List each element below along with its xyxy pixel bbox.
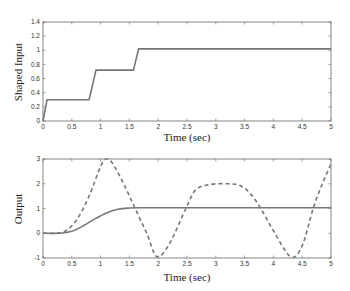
x-tick-label: 4 (272, 260, 276, 267)
x-tick-label: 3 (214, 260, 218, 267)
y-tick-label: 0.8 (31, 61, 40, 68)
y-tick-label: -1 (34, 254, 40, 261)
y-tick-label: 1 (36, 205, 40, 212)
top-xlabel: Time (sec) (164, 131, 211, 144)
series-line (43, 208, 331, 234)
x-tick-label: 1 (99, 260, 103, 267)
y-tick-label: 3 (36, 155, 40, 162)
axes-frame (43, 22, 331, 121)
x-tick-label: 1.5 (125, 260, 134, 267)
y-tick-label: 1.4 (31, 18, 40, 25)
x-tick-label: 5 (329, 123, 333, 130)
y-tick-label: 0.4 (31, 89, 40, 96)
y-tick-label: 2 (36, 180, 40, 187)
x-tick-label: 2 (156, 123, 160, 130)
x-tick-label: 0 (41, 260, 45, 267)
y-tick-label: 1 (36, 46, 40, 53)
x-tick-label: 4.5 (298, 260, 307, 267)
x-tick-label: 3.5 (240, 123, 249, 130)
top-axes-shaped-input: 00.511.522.533.544.5500.20.40.60.811.21.… (31, 18, 333, 130)
x-tick-label: 3 (214, 123, 218, 130)
bottom-axes-output: 00.511.522.533.544.55-10123 (34, 155, 333, 267)
x-tick-label: 4 (272, 123, 276, 130)
x-tick-label: 1 (99, 123, 103, 130)
bottom-xlabel: Time (sec) (164, 271, 211, 284)
y-tick-label: 0.6 (31, 75, 40, 82)
x-tick-label: 1.5 (125, 123, 134, 130)
x-tick-label: 5 (329, 260, 333, 267)
x-tick-label: 2 (156, 260, 160, 267)
x-tick-label: 0.5 (67, 260, 76, 267)
series-line (43, 49, 331, 121)
x-tick-label: 0.5 (67, 123, 76, 130)
figure: 00.511.522.533.544.5500.20.40.60.811.21.… (0, 0, 350, 291)
top-ylabel: Shaped Input (12, 43, 24, 101)
y-tick-label: 0 (36, 229, 40, 236)
x-tick-label: 2.5 (182, 260, 191, 267)
y-tick-label: 0 (36, 117, 40, 124)
bottom-ylabel: Output (12, 194, 24, 225)
x-tick-label: 2.5 (182, 123, 191, 130)
y-tick-label: 1.2 (31, 32, 40, 39)
x-tick-label: 4.5 (298, 123, 307, 130)
x-tick-label: 3.5 (240, 260, 249, 267)
x-tick-label: 0 (41, 123, 45, 130)
y-tick-label: 0.2 (31, 103, 40, 110)
